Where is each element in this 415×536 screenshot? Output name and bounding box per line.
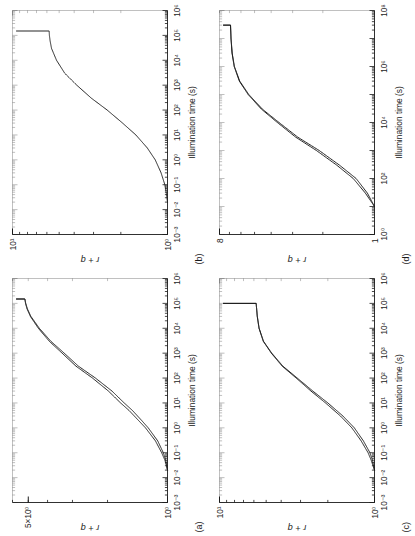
svg-text:r + q: r + q [287,254,305,264]
svg-text:10⁰: 10⁰ [172,421,181,433]
svg-text:10⁴: 10⁴ [379,115,388,128]
svg-text:10⁻¹: 10⁻¹ [172,444,181,460]
svg-text:10⁵: 10⁵ [172,29,181,42]
svg-text:10⁰: 10⁰ [163,238,172,250]
svg-text:10¹: 10¹ [172,128,181,140]
panel-b-plot: 10⁻³10⁻²10⁻¹10⁰10¹10²10³10⁴10⁵10⁶Illumin… [0,0,207,268]
svg-text:(b): (b) [193,253,203,264]
svg-text:10⁻²: 10⁻² [172,201,181,217]
svg-text:10⁻²: 10⁻² [379,469,388,485]
svg-text:10⁰: 10⁰ [370,506,379,518]
svg-text:Illumination time (s): Illumination time (s) [393,353,403,426]
figure-four-panel-log-log-plots: 10⁻³10⁻²10⁻¹10⁰10¹10²10³10⁴10⁵10⁶Illumin… [0,0,415,536]
svg-text:10⁰: 10⁰ [379,421,388,433]
svg-text:(c): (c) [400,522,410,533]
svg-text:10¹: 10¹ [379,396,388,408]
svg-text:10⁻²: 10⁻² [172,469,181,485]
panel-d-plot: 10⁰10²10⁴10⁶10⁸Illumination time (s)18r … [207,0,414,268]
svg-text:Illumination time (s): Illumination time (s) [186,85,196,158]
svg-text:Illumination time (s): Illumination time (s) [186,353,196,426]
svg-text:10⁶: 10⁶ [172,4,181,16]
svg-text:10⁵: 10⁵ [379,297,388,310]
svg-text:(a): (a) [193,521,203,532]
svg-text:10⁶: 10⁶ [379,60,388,72]
svg-text:10⁻³: 10⁻³ [379,494,388,510]
panel-a-plot: 10⁻³10⁻²10⁻¹10⁰10¹10²10³10⁴10⁵10⁶Illumin… [0,268,207,536]
svg-text:r + q: r + q [80,254,98,264]
panel-a-rotation-wrapper: 10⁻³10⁻²10⁻¹10⁰10¹10²10³10⁴10⁵10⁶Illumin… [0,268,207,536]
panel-c-plot: 10⁻³10⁻²10⁻¹10⁰10¹10²10³10⁴10⁵10⁶Illumin… [207,268,414,536]
svg-text:10⁻³: 10⁻³ [172,226,181,242]
svg-text:10²: 10² [172,371,181,383]
svg-text:10⁶: 10⁶ [379,272,388,284]
svg-text:10⁸: 10⁸ [379,4,388,17]
svg-text:10¹: 10¹ [172,396,181,408]
panel-b: 10⁻³10⁻²10⁻¹10⁰10¹10²10³10⁴10⁵10⁶Illumin… [0,0,207,268]
svg-text:5×10⁰: 5×10⁰ [24,506,33,527]
svg-text:10²: 10² [379,371,388,383]
svg-text:10⁴: 10⁴ [172,321,181,334]
svg-text:10⁰: 10⁰ [163,506,172,518]
panel-c: 10⁻³10⁻²10⁻¹10⁰10¹10²10³10⁴10⁵10⁶Illumin… [207,268,414,536]
svg-text:10⁰: 10⁰ [172,153,181,165]
svg-text:10¹: 10¹ [215,506,224,518]
svg-text:10³: 10³ [172,346,181,358]
panel-b-rotation-wrapper: 10⁻³10⁻²10⁻¹10⁰10¹10²10³10⁴10⁵10⁶Illumin… [0,0,207,268]
svg-text:10⁴: 10⁴ [379,321,388,334]
panel-d: 10⁰10²10⁴10⁶10⁸Illumination time (s)18r … [207,0,414,268]
panel-d-rotation-wrapper: 10⁰10²10⁴10⁶10⁸Illumination time (s)18r … [207,0,414,268]
svg-text:1: 1 [370,238,379,243]
svg-text:10⁴: 10⁴ [172,53,181,66]
svg-text:(d): (d) [400,253,410,264]
svg-text:10⁵: 10⁵ [172,297,181,310]
panel-c-rotation-wrapper: 10⁻³10⁻²10⁻¹10⁰10¹10²10³10⁴10⁵10⁶Illumin… [207,268,414,536]
svg-text:10⁰: 10⁰ [379,228,388,240]
svg-text:10⁻¹: 10⁻¹ [172,176,181,192]
svg-text:10⁻¹: 10⁻¹ [379,444,388,460]
svg-text:Illumination time (s): Illumination time (s) [393,85,403,158]
svg-text:10⁶: 10⁶ [172,272,181,284]
svg-text:10²: 10² [172,103,181,115]
svg-text:10³: 10³ [172,78,181,90]
svg-text:10²: 10² [379,172,388,184]
svg-text:10⁻³: 10⁻³ [172,494,181,510]
svg-text:r + q: r + q [80,522,98,532]
panel-a: 10⁻³10⁻²10⁻¹10⁰10¹10²10³10⁴10⁵10⁶Illumin… [0,268,207,536]
svg-text:10¹: 10¹ [8,238,17,250]
svg-text:r + q: r + q [287,522,305,532]
svg-text:8: 8 [215,238,224,243]
svg-text:10³: 10³ [379,346,388,358]
